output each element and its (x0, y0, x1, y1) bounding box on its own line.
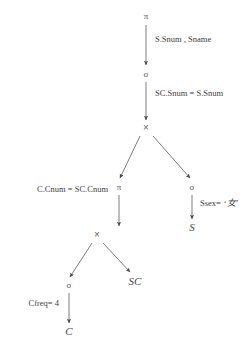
tree-node-sel-join: σ (144, 70, 149, 79)
ssex-prefix: Ssex= (200, 198, 221, 208)
tree-node-sel-leaf: σ (67, 281, 72, 290)
tree-node-proj-root: π (144, 12, 149, 21)
tree-edge (153, 136, 190, 178)
node-symbol: π (144, 11, 149, 21)
node-symbol: π (117, 182, 122, 192)
edge-label-lbl-join-cond: SC.Snum = S.Snum (155, 89, 223, 98)
edge-label-ssex: Ssex=‘女’ (200, 199, 239, 209)
node-symbol: σ (144, 69, 149, 79)
edge-label-lbl-cnum-cond: C.Cnum = SC.Cnum (37, 185, 108, 194)
tree-node-rel-sc: SC (129, 276, 142, 287)
node-symbol: SC (129, 275, 142, 287)
tree-edge (120, 136, 140, 178)
node-symbol: σ (67, 280, 72, 290)
node-symbol: × (94, 229, 100, 240)
tree-node-cross-top: × (143, 123, 149, 133)
node-symbol: S (189, 221, 195, 233)
node-symbol: C (65, 325, 72, 337)
ssex-quote-close: ’ (236, 198, 239, 208)
ssex-value: 女 (227, 198, 236, 208)
tree-edge (103, 243, 130, 272)
tree-edge (70, 243, 92, 277)
tree-node-sel-right: σ (190, 183, 195, 192)
tree-node-rel-s: S (189, 222, 195, 233)
node-symbol: σ (190, 182, 195, 192)
tree-node-rel-c: C (65, 326, 72, 337)
tree-node-proj-left: π (117, 183, 122, 192)
node-symbol: × (143, 122, 149, 133)
query-tree-diagram: πσ×πσ×SσSCC S.Snum , SnameSC.Snum = S.Sn… (0, 0, 251, 351)
tree-node-cross-lower: × (94, 230, 100, 240)
edge-label-lbl-projection: S.Snum , Sname (155, 35, 211, 44)
edge-label-lbl-cfreq: Cfreq= 4 (28, 299, 59, 308)
